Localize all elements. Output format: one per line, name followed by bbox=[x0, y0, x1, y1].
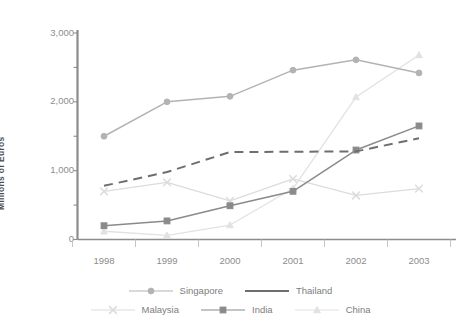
legend-label-thailand: Thailand bbox=[296, 285, 332, 296]
x-tick-1998: 1998 bbox=[79, 255, 129, 266]
legend-label-malaysia: Malaysia bbox=[142, 304, 180, 315]
legend-item-india[interactable]: India bbox=[201, 304, 273, 316]
chart-legend: Singapore Thailand Malaysia India China bbox=[0, 281, 461, 319]
x-tick-2001: 2001 bbox=[268, 255, 318, 266]
legend-label-singapore: Singapore bbox=[180, 285, 223, 296]
x-tick-2000: 2000 bbox=[205, 255, 255, 266]
chart-container: Millions of Euros 3,000 2,000 1,000 0 19… bbox=[0, 0, 461, 334]
legend-row-2: Malaysia India China bbox=[0, 300, 461, 319]
legend-label-india: India bbox=[252, 304, 273, 315]
legend-swatch-india bbox=[201, 304, 245, 316]
legend-item-singapore[interactable]: Singapore bbox=[129, 285, 223, 297]
legend-swatch-china bbox=[295, 304, 339, 316]
legend-swatch-malaysia bbox=[91, 304, 135, 316]
x-tick-2002: 2002 bbox=[331, 255, 381, 266]
legend-item-thailand[interactable]: Thailand bbox=[245, 285, 332, 297]
x-tick-2003: 2003 bbox=[394, 255, 444, 266]
legend-item-malaysia[interactable]: Malaysia bbox=[91, 304, 180, 316]
legend-swatch-thailand bbox=[245, 285, 289, 297]
legend-label-china: China bbox=[346, 304, 371, 315]
legend-item-china[interactable]: China bbox=[295, 304, 371, 316]
legend-swatch-singapore bbox=[129, 285, 173, 297]
legend-row-1: Singapore Thailand bbox=[0, 281, 461, 300]
x-tick-1999: 1999 bbox=[142, 255, 192, 266]
